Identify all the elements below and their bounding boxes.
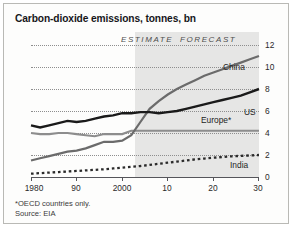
series-label-us: US	[244, 107, 256, 117]
x-tick-2030	[258, 177, 259, 181]
x-tick-label-2030: 30	[253, 183, 262, 193]
x-tick-2000	[122, 177, 123, 181]
source-note: Source: EIA	[15, 209, 56, 218]
y-tick-label-2: 2	[265, 150, 270, 160]
series-label-china: China	[223, 62, 245, 72]
series-label-india: India	[230, 160, 248, 170]
forecast-label: FORECAST	[180, 35, 236, 44]
x-tick-2010	[167, 177, 168, 181]
x-tick-label-2000: 2000	[113, 183, 132, 193]
y-tick-label-0: 0	[265, 172, 270, 182]
y-tick-label-4: 4	[265, 128, 270, 138]
x-axis-line	[31, 177, 259, 178]
page-title: Carbon-dioxide emissions, tonnes, bn	[15, 13, 196, 24]
y-tick-label-8: 8	[265, 84, 270, 94]
x-tick-label-2020: 20	[208, 183, 217, 193]
chart-card: Carbon-dioxide emissions, tonnes, bn EST…	[3, 3, 289, 224]
y-tick-label-12: 12	[265, 40, 274, 50]
x-tick-1990	[76, 177, 77, 181]
estimate-label: ESTIMATE	[121, 35, 173, 44]
y-tick-label-10: 10	[265, 62, 274, 72]
x-tick-2020	[213, 177, 214, 181]
series-line-europe	[31, 131, 259, 137]
series-label-europe: Europe*	[201, 115, 231, 125]
series-line-india	[31, 155, 259, 174]
x-tick-1980	[31, 177, 32, 181]
x-tick-label-1990: 90	[71, 183, 80, 193]
x-tick-label-2010: 10	[162, 183, 171, 193]
footnote: *OECD countries only.	[15, 199, 90, 208]
x-tick-label-1980: 1980	[25, 183, 44, 193]
y-tick-label-6: 6	[265, 106, 270, 116]
